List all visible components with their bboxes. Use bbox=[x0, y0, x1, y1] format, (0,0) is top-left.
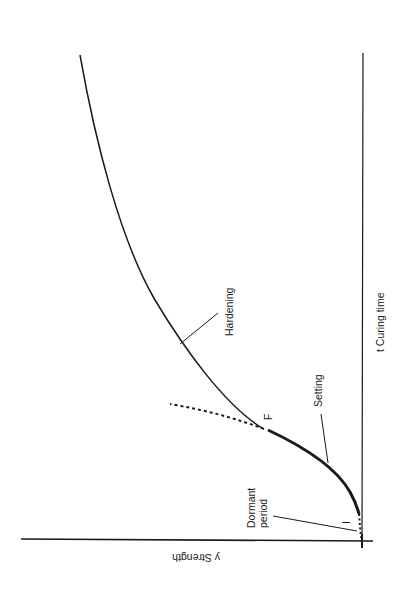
hardening-label: Hardening bbox=[223, 287, 235, 336]
hardening-leader bbox=[180, 313, 218, 344]
curing-time-axis bbox=[362, 53, 363, 540]
dormant-label-line1: Dormant bbox=[245, 488, 257, 528]
curing-time-axis-label: t Curing time bbox=[374, 292, 386, 352]
hardening-curve bbox=[80, 55, 262, 428]
dormant-label-line2: period bbox=[257, 499, 269, 528]
extrapolation-dotted-curve bbox=[170, 404, 264, 429]
strength-axis bbox=[21, 539, 373, 541]
point-f-label: F bbox=[262, 414, 274, 420]
setting-leader bbox=[321, 414, 328, 463]
strength-axis-label: y Strength bbox=[172, 552, 220, 564]
setting-curve bbox=[268, 430, 359, 514]
point-i-label: I bbox=[340, 521, 352, 524]
strength-curing-diagram: Hardening Setting F I Dormant period t C… bbox=[0, 0, 402, 597]
setting-label: Setting bbox=[312, 374, 324, 407]
dormant-curve bbox=[359, 514, 361, 538]
